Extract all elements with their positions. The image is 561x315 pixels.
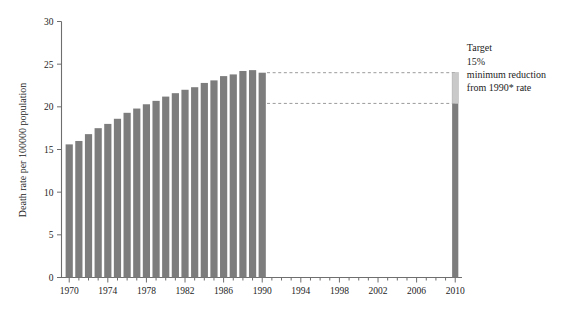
target-bar-lower-segment: [452, 103, 458, 277]
x-axis-tick-label: 2002: [369, 286, 388, 296]
bar: [66, 144, 73, 277]
x-axis-tick-label: 1994: [291, 286, 310, 296]
bar: [85, 134, 92, 277]
bar: [201, 83, 208, 278]
bar: [210, 80, 217, 277]
bar: [172, 93, 179, 277]
target-annotation-line: from 1990* rate: [467, 82, 532, 93]
bar: [143, 104, 150, 277]
bar: [114, 119, 121, 278]
y-axis-tick-label: 0: [49, 273, 54, 283]
bar: [95, 128, 102, 277]
bar: [239, 71, 246, 278]
x-axis-tick-label: 2010: [446, 286, 465, 296]
target-annotation-line: Target: [467, 42, 492, 53]
bar: [230, 74, 237, 277]
y-axis-tick-label: 30: [44, 17, 54, 27]
x-axis-tick-label: 1986: [214, 286, 233, 296]
bar-chart: 051015202530Death rate per 100000 popula…: [0, 0, 561, 315]
x-axis-tick-label: 1998: [330, 286, 349, 296]
target-annotation-line: 15%: [467, 56, 485, 67]
y-axis-title: Death rate per 100000 population: [17, 83, 28, 217]
x-axis-tick-label: 1978: [137, 286, 156, 296]
target-annotation-line: minimum reduction: [467, 69, 546, 80]
bar: [152, 101, 159, 278]
bar: [162, 97, 169, 278]
bar: [249, 70, 256, 277]
bar: [104, 124, 111, 278]
y-axis-tick-label: 20: [44, 102, 54, 112]
y-axis-tick-label: 25: [44, 60, 54, 70]
y-axis-tick-label: 15: [44, 145, 54, 155]
bar: [181, 90, 188, 278]
bar: [75, 141, 82, 278]
chart-container: 051015202530Death rate per 100000 popula…: [0, 0, 561, 315]
target-bar-upper-segment: [452, 73, 458, 104]
x-axis-tick-label: 1982: [176, 286, 195, 296]
y-axis-tick-label: 5: [49, 230, 54, 240]
bar: [259, 73, 266, 278]
x-axis-tick-label: 1990: [253, 286, 272, 296]
bar: [191, 87, 198, 277]
bar: [133, 109, 140, 278]
bar: [124, 113, 131, 278]
x-axis-tick-label: 2006: [407, 286, 426, 296]
bar: [220, 76, 227, 277]
y-axis-tick-label: 10: [44, 188, 54, 198]
x-axis-tick-label: 1970: [60, 286, 79, 296]
x-axis-tick-label: 1974: [98, 286, 117, 296]
